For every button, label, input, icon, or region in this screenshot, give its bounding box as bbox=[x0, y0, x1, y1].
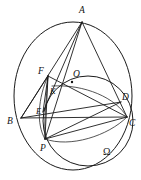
arc-k-c-upper bbox=[52, 86, 127, 117]
geometry-figure: A B C D E F K O P Ω bbox=[0, 0, 141, 180]
point-label-d: D bbox=[121, 92, 129, 102]
point-label-k: K bbox=[49, 87, 56, 96]
segment-d-p bbox=[45, 102, 121, 139]
segment-a-p bbox=[45, 22, 82, 139]
circumcircle-shape bbox=[14, 22, 132, 170]
point-label-c: C bbox=[129, 118, 136, 128]
point-label-p: P bbox=[39, 143, 46, 153]
omega-label: Ω bbox=[103, 146, 110, 157]
point-label-a: A bbox=[78, 5, 85, 15]
point-label-f: F bbox=[37, 66, 44, 76]
point-label-b: B bbox=[7, 116, 13, 126]
geometry-canvas: A B C D E F K O P Ω bbox=[0, 0, 141, 180]
center-point-o-dot bbox=[71, 81, 73, 83]
point-label-o: O bbox=[73, 69, 80, 79]
segment-b-c bbox=[21, 117, 127, 118]
point-label-e: E bbox=[35, 107, 41, 116]
segment-c-p bbox=[45, 117, 127, 139]
segment-a-e bbox=[43, 22, 82, 112]
omega-circle-shape bbox=[43, 76, 133, 166]
segment-f-c bbox=[48, 76, 127, 117]
